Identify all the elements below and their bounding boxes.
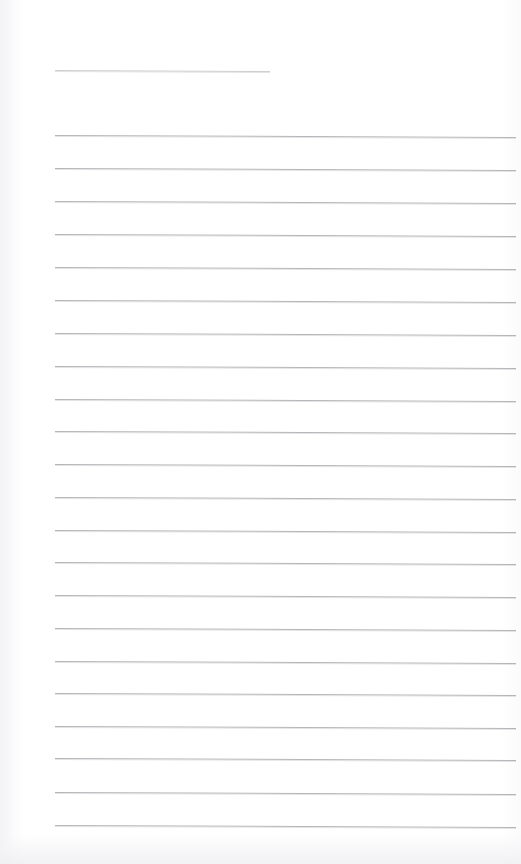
- writing-area[interactable]: [0, 0, 521, 864]
- notebook-page: [0, 0, 521, 864]
